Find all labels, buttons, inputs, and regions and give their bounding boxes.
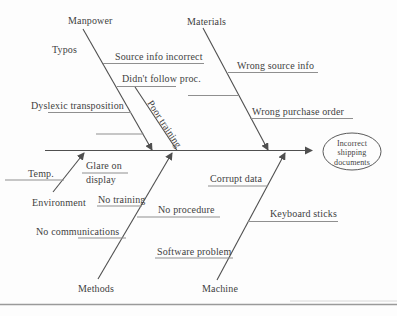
cause-label-poor-training: Poor training: [145, 98, 184, 150]
manpower-bone-line: [83, 29, 152, 150]
cause-label-no-communications: No communications: [36, 226, 119, 237]
cause-label-wrong-source-info: Wrong source info: [237, 60, 314, 71]
methods-bone-line: [98, 153, 172, 279]
branch-label-manpower: Manpower: [68, 15, 113, 26]
cause-label-temp: Temp.: [28, 168, 54, 179]
cause-label-keyboard-sticks: Keyboard sticks: [270, 208, 337, 219]
branch-label-machine: Machine: [202, 283, 238, 294]
effect-label-line3: documents: [334, 158, 370, 167]
cause-label-dyslexic-transposition: Dyslexic transposition: [31, 100, 124, 111]
cause-label-glare-display: display: [86, 174, 116, 185]
branch-label-materials: Materials: [187, 16, 226, 27]
materials-bone-line: [203, 28, 268, 150]
cause-label-corrupt-data: Corrupt data: [210, 173, 262, 184]
branch-label-methods: Methods: [78, 283, 114, 294]
cause-label-glare-on: Glare on: [86, 160, 122, 171]
cause-label-no-procedure: No procedure: [158, 204, 215, 215]
cause-label-typos: Typos: [52, 44, 77, 55]
environment-bone-line: [53, 153, 84, 192]
fishbone-diagram: Incorrect shipping documents Manpower Ty…: [0, 0, 397, 316]
cause-label-didnt-follow-proc: Didn't follow proc.: [122, 73, 201, 84]
cause-label-software-problem: Software problem: [157, 246, 231, 257]
effect-label-line2: shipping: [338, 148, 367, 157]
cause-label-wrong-purchase-order: Wrong purchase order: [252, 106, 345, 117]
branch-label-environment: Environment: [32, 197, 86, 208]
cause-label-no-training: No training: [98, 194, 145, 205]
cause-label-source-info-incorrect: Source info incorrect: [115, 51, 203, 62]
effect-label-line1: Incorrect: [337, 139, 368, 148]
fishbone-canvas: Incorrect shipping documents Manpower Ty…: [0, 0, 397, 316]
